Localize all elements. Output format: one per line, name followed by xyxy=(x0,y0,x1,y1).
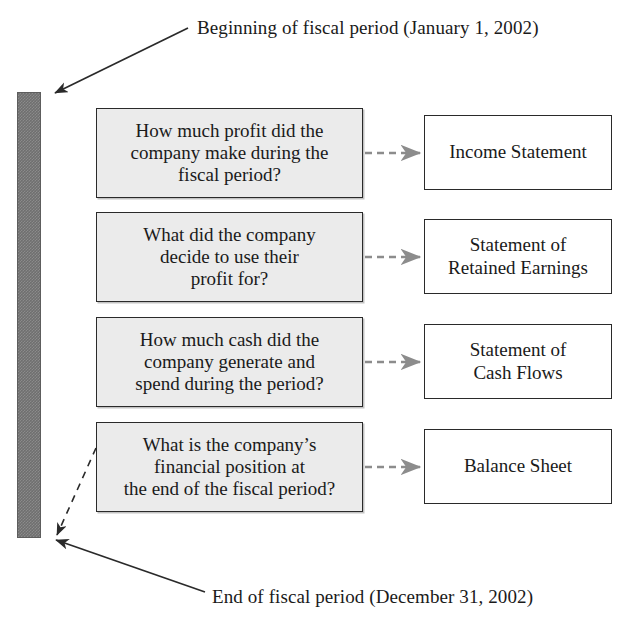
beginning-of-fiscal-period-label: Beginning of fiscal period (January 1, 2… xyxy=(197,17,539,39)
begin-period-arrow xyxy=(55,28,188,93)
statement-text: Income Statement xyxy=(444,141,592,164)
statement-text: Balance Sheet xyxy=(459,455,577,478)
fiscal-period-bar xyxy=(17,92,41,538)
question-box-income-statement: How much profit did the company make dur… xyxy=(96,108,363,198)
question-text: What did the company decide to use their… xyxy=(137,224,322,290)
balance-sheet-period-end-link xyxy=(57,448,96,535)
question-text: How much profit did the company make dur… xyxy=(125,120,335,186)
statement-box-balance-sheet: Balance Sheet xyxy=(424,429,612,504)
end-of-fiscal-period-label: End of fiscal period (December 31, 2002) xyxy=(212,586,533,608)
statement-box-cash-flows: Statement of Cash Flows xyxy=(424,324,612,399)
question-text: How much cash did the company generate a… xyxy=(129,329,329,395)
fiscal-period-diagram: Beginning of fiscal period (January 1, 2… xyxy=(0,0,628,623)
statement-box-income-statement: Income Statement xyxy=(424,115,612,190)
statement-box-retained-earnings: Statement of Retained Earnings xyxy=(424,219,612,294)
statement-text: Statement of Retained Earnings xyxy=(443,234,593,280)
statement-text: Statement of Cash Flows xyxy=(465,339,572,385)
question-box-cash-flows: How much cash did the company generate a… xyxy=(96,317,363,407)
connector-layer xyxy=(0,0,628,623)
question-box-retained-earnings: What did the company decide to use their… xyxy=(96,212,363,302)
end-period-arrow xyxy=(56,540,205,592)
question-text: What is the company’s financial position… xyxy=(118,434,342,500)
question-box-balance-sheet: What is the company’s financial position… xyxy=(96,422,363,512)
